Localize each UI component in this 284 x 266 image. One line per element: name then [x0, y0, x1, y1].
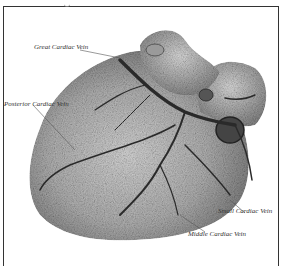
label-small-cardiac-vein: Small Cardiac Vein [218, 207, 272, 215]
label-great-cardiac-vein: Great Cardiac Vein [34, 43, 88, 51]
label-posterior-cardiac-vein: Posterior Cardiac Vein [4, 100, 69, 108]
label-middle-cardiac-vein: Middle Cardiac Vein [188, 230, 246, 238]
